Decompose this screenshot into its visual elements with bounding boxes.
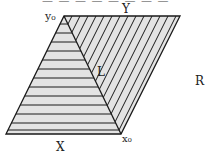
label-L: L xyxy=(97,66,105,78)
diagram-figure: — — — — — — — — Y y₀ L R X x₀ xyxy=(0,0,207,156)
label-X: X xyxy=(56,141,65,153)
label-y0: y₀ xyxy=(45,11,56,22)
label-Y: Y xyxy=(122,3,130,15)
cutoff-caption-text: — — — — — — — — xyxy=(42,0,177,2)
label-R: R xyxy=(195,75,204,87)
cutoff-caption: — — — — — — — — xyxy=(42,0,177,2)
label-x0: x₀ xyxy=(122,134,132,144)
